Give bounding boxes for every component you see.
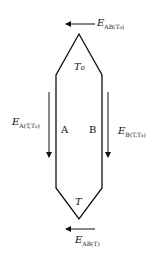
bottom-junction-label: T: [75, 197, 82, 207]
branch-a-label: A: [61, 125, 68, 135]
branch-b-label: B: [89, 125, 96, 135]
bottom-arrow-label: EAB(T): [75, 235, 100, 247]
thermocouple-diagram: EAB(T₀) T₀ EA(T,T₀) A B EB(T,T₀) T EAB(T…: [0, 0, 158, 254]
right-arrow-label: EB(T,T₀): [118, 126, 146, 138]
top-arrow-label: EAB(T₀): [97, 18, 124, 30]
top-junction-label: T₀: [74, 62, 85, 72]
left-arrow-label: EA(T,T₀): [12, 117, 40, 129]
